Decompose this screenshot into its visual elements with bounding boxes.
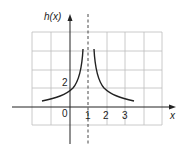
x-tick-2: 2 xyxy=(103,110,109,121)
x-axis-arrow-icon xyxy=(169,105,176,110)
curve-right-branch xyxy=(94,49,134,101)
y-axis-arrow-icon xyxy=(68,14,73,21)
graph: h(x) x 0 1 2 3 2 xyxy=(0,0,186,144)
curve-left-branch xyxy=(42,49,83,101)
origin-label: 0 xyxy=(62,108,68,119)
x-tick-3: 3 xyxy=(122,110,128,121)
y-tick-2: 2 xyxy=(62,77,68,88)
y-axis xyxy=(68,14,73,144)
x-axis xyxy=(12,105,176,110)
y-axis-label: h(x) xyxy=(44,11,61,22)
x-tick-1: 1 xyxy=(85,110,91,121)
x-axis-label: x xyxy=(169,110,176,121)
grid xyxy=(32,32,162,125)
